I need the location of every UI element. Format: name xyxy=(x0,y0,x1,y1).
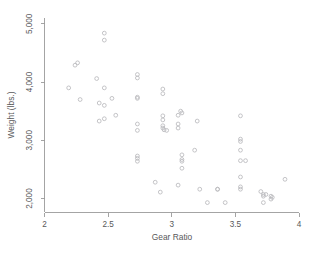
data-point xyxy=(97,101,101,105)
y-axis-ticks: 2,0003,0004,0005,000 xyxy=(25,13,44,209)
data-point xyxy=(180,153,184,157)
data-point xyxy=(239,175,243,179)
data-point xyxy=(261,201,265,205)
data-point xyxy=(239,140,243,144)
y-axis-title: Weight (lbs.) xyxy=(6,91,16,138)
data-point xyxy=(216,187,220,191)
data-point xyxy=(283,177,287,181)
plot-canvas: 2,0003,0004,0005,000 22.533.54 Gear Rati… xyxy=(0,0,318,255)
data-point xyxy=(239,159,243,163)
data-point xyxy=(76,61,80,65)
y-tick-label: 5,000 xyxy=(25,13,34,34)
data-point xyxy=(176,113,180,117)
data-point xyxy=(205,201,209,205)
x-axis-ticks: 22.533.54 xyxy=(42,213,302,229)
data-point xyxy=(102,38,106,42)
data-point xyxy=(110,96,114,100)
data-point xyxy=(161,87,165,91)
x-tick-label: 4 xyxy=(297,220,302,229)
data-point xyxy=(180,166,184,170)
data-point xyxy=(239,114,243,118)
data-point xyxy=(158,190,162,194)
x-tick-label: 2.5 xyxy=(102,220,114,229)
data-point xyxy=(165,128,169,132)
scatter-plot-figure: 2,0003,0004,0005,000 22.533.54 Gear Rati… xyxy=(0,0,318,255)
data-point xyxy=(239,148,243,152)
y-tick-label: 3,000 xyxy=(25,130,34,151)
x-tick-label: 3 xyxy=(169,220,174,229)
data-point xyxy=(244,159,248,163)
data-point xyxy=(161,114,165,118)
x-tick-label: 3.5 xyxy=(230,220,242,229)
data-point xyxy=(195,119,199,123)
data-point xyxy=(223,201,227,205)
data-markers-group xyxy=(67,31,287,204)
data-point xyxy=(102,103,106,107)
data-point xyxy=(193,148,197,152)
data-point xyxy=(102,31,106,35)
data-point xyxy=(176,122,180,126)
y-tick-label: 4,000 xyxy=(25,71,34,92)
y-tick-label: 2,000 xyxy=(25,188,34,209)
data-point xyxy=(78,98,82,102)
data-point xyxy=(161,118,165,122)
data-point xyxy=(114,113,118,117)
data-point xyxy=(198,187,202,191)
data-point xyxy=(176,126,180,130)
data-point xyxy=(135,128,139,132)
data-point xyxy=(102,86,106,90)
data-point xyxy=(135,122,139,126)
data-point xyxy=(176,183,180,187)
data-point xyxy=(95,77,99,81)
data-point xyxy=(239,187,243,191)
axes-group xyxy=(45,18,300,213)
data-point xyxy=(161,92,165,96)
data-point xyxy=(97,119,101,123)
x-tick-label: 2 xyxy=(42,220,47,229)
x-axis-title: Gear Ratio xyxy=(152,232,193,242)
data-point xyxy=(67,86,71,90)
data-point xyxy=(153,180,157,184)
data-point xyxy=(102,117,106,121)
